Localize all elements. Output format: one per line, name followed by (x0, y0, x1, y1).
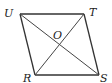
diagonal-TR (35, 14, 84, 75)
rhombus-diagram: U T R S O (0, 0, 112, 83)
side-RU (20, 14, 35, 75)
vertex-label-U: U (4, 7, 14, 20)
vertex-label-S: S (100, 72, 108, 83)
intersection-label-O: O (53, 29, 62, 42)
vertex-label-T: T (89, 6, 98, 19)
rhombus-diagonals (20, 14, 99, 75)
vertex-label-R: R (22, 72, 31, 83)
side-TS (84, 14, 99, 75)
vertex-labels: U T R S O (4, 6, 108, 83)
